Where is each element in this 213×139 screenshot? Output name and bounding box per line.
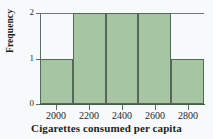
- x-axis-title: Cigarettes consumed per capita: [0, 122, 213, 134]
- y-axis-title: Frequency: [5, 0, 15, 67]
- bar-bin-4: [138, 13, 171, 104]
- bar-series: [40, 13, 204, 104]
- x-tick-label-2800: 2800: [168, 110, 208, 121]
- y-tick-label-0: 0: [18, 99, 34, 108]
- bar-bin-3: [106, 13, 139, 104]
- y-tick-label-2: 2: [18, 8, 34, 17]
- y-tick-label-1: 1: [18, 54, 34, 63]
- plot-area: [40, 13, 204, 104]
- histogram-figure: Frequency 0 1 2 2000 2200 2400 2600 2800…: [0, 0, 213, 139]
- bar-bin-2: [73, 13, 106, 104]
- bar-bin-5: [171, 59, 204, 105]
- bar-bin-1: [40, 59, 73, 105]
